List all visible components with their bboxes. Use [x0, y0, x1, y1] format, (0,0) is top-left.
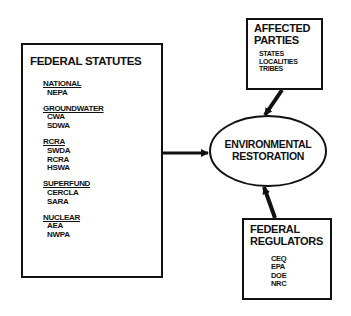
statute-group-nuclear: NUCLEAR AEA NWPA — [43, 214, 161, 240]
statute-item: NEPA — [43, 89, 161, 98]
regulators-title-line-2: REGULATORS — [250, 236, 330, 248]
statute-group-rcra: RCRA SWDA RCRA HSWA — [43, 138, 161, 173]
statute-item: SDWA — [43, 122, 161, 131]
statute-item: NWPA — [43, 231, 161, 240]
statute-group-groundwater: GROUNDWATER CWA SDWA — [43, 105, 161, 131]
statute-item: HSWA — [43, 164, 161, 173]
affected-title-line-1: AFFECTED — [254, 23, 321, 35]
affected-parties-box: AFFECTED PARTIES STATES LOCALITIES TRIBE… — [246, 18, 323, 90]
affected-title-line-2: PARTIES — [254, 35, 321, 47]
affected-item: STATES — [259, 50, 321, 58]
arrow-regulators-to-center — [264, 187, 275, 218]
statute-item: SARA — [43, 198, 161, 207]
center-line-2: RESTORATION — [210, 151, 326, 163]
statute-group-national: NATIONAL NEPA — [43, 80, 161, 98]
federal-statutes-title: FEDERAL STATUTES — [30, 55, 161, 67]
federal-regulators-box: FEDERAL REGULATORS CEQ EPA DOE NRC — [242, 218, 332, 300]
affected-item: LOCALITIES — [259, 58, 321, 66]
center-line-1: ENVIRONMENTAL — [210, 139, 326, 151]
arrow-affected-to-center — [265, 90, 282, 115]
statutes-list: NATIONAL NEPA GROUNDWATER CWA SDWA RCRA … — [30, 80, 161, 240]
regulator-item: NRC — [271, 280, 330, 288]
statute-group-superfund: SUPERFUND CERCLA SARA — [43, 180, 161, 206]
affected-item: TRIBES — [259, 65, 321, 73]
federal-statutes-box: FEDERAL STATUTES NATIONAL NEPA GROUNDWAT… — [21, 43, 163, 278]
regulators-title-line-1: FEDERAL — [250, 224, 330, 236]
environmental-restoration-label: ENVIRONMENTAL RESTORATION — [210, 139, 326, 162]
